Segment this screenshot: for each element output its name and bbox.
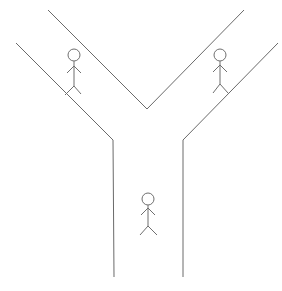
- y-junction-diagram: [0, 0, 282, 291]
- stick-figure-right: [213, 49, 228, 93]
- road-edges: [16, 10, 278, 277]
- stick-figure-left: [65, 49, 81, 95]
- road-edge-left: [16, 43, 114, 277]
- road-edge-right: [183, 43, 278, 277]
- stick-figure-stem: [140, 193, 157, 235]
- legs: [213, 84, 228, 93]
- head-icon: [214, 49, 226, 61]
- legs: [65, 86, 81, 95]
- head-icon: [142, 193, 154, 205]
- head-icon: [68, 49, 80, 61]
- legs: [140, 226, 157, 235]
